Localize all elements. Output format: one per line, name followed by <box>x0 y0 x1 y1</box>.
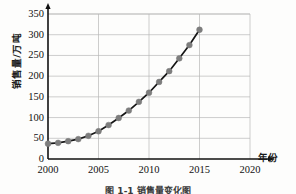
x-axis-title: 年份 <box>258 150 278 164</box>
x-axis-tick-labels: 20002005201020152020 <box>0 0 296 194</box>
figure-caption: 图 1-1 销售量变化图 <box>0 184 296 194</box>
x-tick-label: 2005 <box>79 164 119 175</box>
chart-figure: 销售量/万吨 050100150200250300350 20002005201… <box>0 0 296 194</box>
x-tick-label: 2010 <box>129 164 169 175</box>
x-tick-label: 2015 <box>180 164 220 175</box>
x-tick-label: 2020 <box>230 164 270 175</box>
x-tick-label: 2000 <box>28 164 68 175</box>
